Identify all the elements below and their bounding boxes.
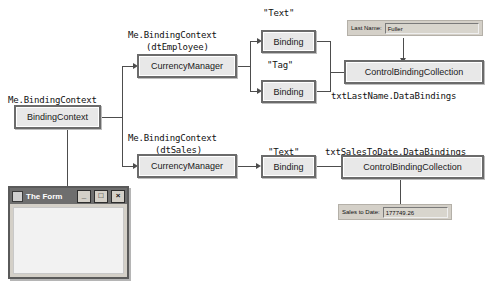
label-tag-property-employee: "Tag" xyxy=(267,60,293,70)
sales-to-date-textbox[interactable]: 177749.26 xyxy=(383,207,448,218)
node-controlbindingcollection-salestodate[interactable]: ControlBindingCollection xyxy=(341,155,484,179)
node-controlbindingcollection-lastname-label: ControlBindingCollection xyxy=(365,67,464,77)
system-menu-icon[interactable] xyxy=(12,191,23,202)
node-controlbindingcollection-salestodate-label: ControlBindingCollection xyxy=(363,162,462,172)
sales-to-date-control-strip: Sales to Date: 177749.26 xyxy=(338,204,452,220)
maximize-button[interactable]: □ xyxy=(94,190,108,203)
connector-salestodate-control-to-cbc xyxy=(400,178,401,204)
connector-bindingcontext-trunk xyxy=(101,117,123,118)
form-titlebar[interactable]: The Form _ □ × xyxy=(10,188,127,204)
sales-to-date-label: Sales to Date: xyxy=(342,209,380,215)
close-button[interactable]: × xyxy=(111,190,125,203)
last-name-textbox[interactable]: Fuller xyxy=(385,23,479,34)
connector-lastname-control-to-cbc xyxy=(403,38,404,60)
node-binding-text-sales[interactable]: Binding xyxy=(261,155,316,178)
connector-cbc-lastname-out xyxy=(330,72,344,73)
the-form-window[interactable]: The Form _ □ × xyxy=(8,186,129,279)
connector-cbc-to-binding-tag xyxy=(316,91,331,92)
connector-cm-employee-out xyxy=(237,66,251,67)
connector-trunk-vertical xyxy=(122,66,123,166)
label-me-bindingcontext-dtsales-line1: Me.BindingContext xyxy=(128,133,217,143)
connector-form-to-bindingcontext xyxy=(67,130,68,186)
connector-cbc-to-binding-text xyxy=(316,41,331,42)
node-binding-text-employee[interactable]: Binding xyxy=(261,30,316,53)
form-title-text: The Form xyxy=(26,192,74,201)
label-me-bindingcontext: Me.BindingContext xyxy=(8,95,97,105)
node-binding-text-sales-label: Binding xyxy=(273,162,303,172)
minimize-button[interactable]: _ xyxy=(77,190,91,203)
label-text-property-employee: "Text" xyxy=(263,8,294,18)
connector-cm-employee-split xyxy=(250,41,251,91)
node-binding-tag-employee[interactable]: Binding xyxy=(261,80,316,103)
connector-cbc-lastname-split xyxy=(330,41,331,91)
node-binding-text-employee-label: Binding xyxy=(273,37,303,47)
node-bindingcontext[interactable]: BindingContext xyxy=(14,105,101,129)
node-bindingcontext-label: BindingContext xyxy=(27,112,88,122)
node-currencymanager-employee[interactable]: CurrencyManager xyxy=(137,54,237,78)
connector-cbc-salestodate-out xyxy=(316,166,341,167)
node-currencymanager-employee-label: CurrencyManager xyxy=(151,61,223,71)
label-me-bindingcontext-dtemployee-line2: (dtEmployee) xyxy=(146,42,209,52)
node-controlbindingcollection-lastname[interactable]: ControlBindingCollection xyxy=(344,60,484,84)
node-currencymanager-sales-label: CurrencyManager xyxy=(151,161,223,171)
last-name-label: Last Name: xyxy=(351,25,382,31)
last-name-control-strip: Last Name: Fuller xyxy=(347,20,483,36)
label-me-bindingcontext-dtemployee-line1: Me.BindingContext xyxy=(128,30,217,40)
node-currencymanager-sales[interactable]: CurrencyManager xyxy=(137,154,237,178)
form-design-surface[interactable] xyxy=(13,207,124,274)
diagram-canvas: Me.BindingContext Me.BindingContext (dtE… xyxy=(0,0,495,289)
node-binding-tag-employee-label: Binding xyxy=(273,87,303,97)
label-txtlastname-databindings: txtLastName.DataBindings xyxy=(331,91,456,101)
